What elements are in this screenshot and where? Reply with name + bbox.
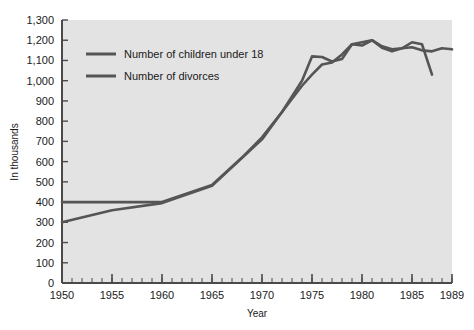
x-tick-label: 1960 bbox=[150, 289, 174, 301]
x-tick-label: 1989 bbox=[440, 289, 464, 301]
chart-container: 01002003004005006007008009001,0001,1001,… bbox=[0, 0, 474, 330]
y-tick-label: 500 bbox=[36, 176, 54, 188]
x-tick-label: 1950 bbox=[50, 289, 74, 301]
y-tick-label: 400 bbox=[36, 196, 54, 208]
y-tick-label: 900 bbox=[36, 95, 54, 107]
x-axis-tick-labels: 195019551960196519701975198019851989 bbox=[50, 289, 464, 301]
x-tick-label: 1985 bbox=[400, 289, 424, 301]
legend-label-children: Number of children under 18 bbox=[124, 48, 263, 60]
y-tick-label: 200 bbox=[36, 237, 54, 249]
x-tick-label: 1980 bbox=[350, 289, 374, 301]
y-tick-label: 100 bbox=[36, 257, 54, 269]
y-tick-label: 1,000 bbox=[26, 75, 54, 87]
legend-label-divorces: Number of divorces bbox=[124, 70, 220, 82]
line-chart: 01002003004005006007008009001,0001,1001,… bbox=[0, 0, 474, 330]
y-tick-label: 300 bbox=[36, 216, 54, 228]
y-tick-label: 600 bbox=[36, 156, 54, 168]
y-axis-title: In thousands bbox=[9, 123, 20, 180]
y-tick-label: 0 bbox=[48, 277, 54, 289]
x-axis-title: Year bbox=[247, 308, 268, 319]
y-tick-label: 1,300 bbox=[26, 14, 54, 26]
y-tick-label: 700 bbox=[36, 135, 54, 147]
x-tick-label: 1975 bbox=[300, 289, 324, 301]
x-tick-label: 1970 bbox=[250, 289, 274, 301]
x-tick-label: 1965 bbox=[200, 289, 224, 301]
y-tick-label: 1,200 bbox=[26, 34, 54, 46]
x-tick-label: 1955 bbox=[100, 289, 124, 301]
y-tick-label: 800 bbox=[36, 115, 54, 127]
y-tick-label: 1,100 bbox=[26, 54, 54, 66]
